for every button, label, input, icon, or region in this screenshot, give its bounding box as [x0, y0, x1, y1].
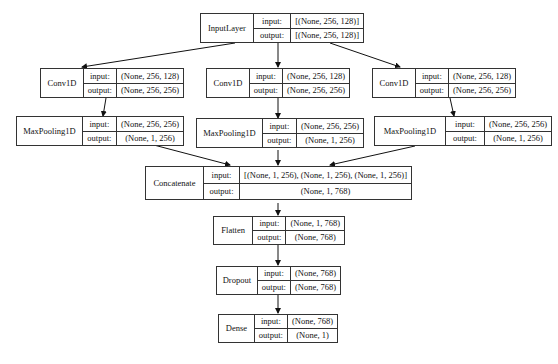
- node-flatten: Flatten input:output: (None, 1, 768)(Non…: [213, 216, 345, 245]
- node-input-layer: InputLayer input:output: [(None, 256, 12…: [200, 13, 364, 43]
- edge-conv3-pool3: [450, 98, 454, 116]
- output-shape: (None, 256, 256): [449, 84, 515, 98]
- output-shape: (None, 768): [291, 281, 340, 294]
- output-shape: (None, 256, 256): [117, 84, 183, 98]
- output-label: output:: [446, 132, 484, 146]
- output-label: output:: [253, 231, 285, 244]
- node-conv1d-2: Conv1D input:output: (None, 256, 128)(No…: [206, 68, 350, 98]
- node-name: MaxPooling1D: [197, 119, 263, 147]
- input-label: input:: [263, 119, 296, 134]
- input-label: input:: [250, 69, 282, 84]
- output-shape: (None, 1): [288, 329, 337, 342]
- node-conv1d-1: Conv1D input:output: (None, 256, 128)(No…: [40, 68, 184, 98]
- node-name: InputLayer: [201, 14, 254, 42]
- node-maxpool-3: MaxPooling1D input:output: (None, 256, 2…: [374, 116, 552, 146]
- edge-input-conv3: [330, 43, 400, 67]
- output-shape: (None, 1, 768): [240, 184, 411, 200]
- input-label: input:: [446, 117, 484, 132]
- input-shape: (None, 256, 128): [449, 69, 515, 84]
- input-label: input:: [83, 117, 116, 132]
- node-name: Concatenate: [146, 167, 204, 199]
- input-label: input:: [204, 167, 239, 184]
- output-label: output:: [255, 329, 287, 342]
- edge-pool3-concat: [330, 146, 415, 165]
- output-label: output:: [84, 84, 116, 98]
- output-label: output:: [83, 132, 116, 146]
- output-label: output:: [254, 29, 290, 43]
- input-shape: [(None, 256, 128)]: [291, 14, 363, 29]
- node-name: MaxPooling1D: [17, 117, 83, 145]
- node-name: Dropout: [217, 267, 258, 294]
- edge-conv1-pool1: [103, 98, 106, 116]
- input-label: input:: [258, 267, 290, 281]
- output-shape: (None, 256, 256): [283, 84, 349, 98]
- output-label: output:: [263, 134, 296, 148]
- input-label: input:: [255, 315, 287, 329]
- input-shape: (None, 256, 128): [283, 69, 349, 84]
- input-shape: (None, 256, 256): [485, 117, 551, 132]
- node-conv1d-3: Conv1D input:output: (None, 256, 128)(No…: [372, 68, 516, 98]
- node-name: Dense: [219, 315, 255, 342]
- input-shape: (None, 256, 128): [117, 69, 183, 84]
- output-label: output:: [204, 184, 239, 200]
- node-name: Conv1D: [207, 69, 250, 97]
- node-maxpool-2: MaxPooling1D input:output: (None, 256, 2…: [196, 118, 364, 148]
- input-shape: (None, 768): [288, 315, 337, 329]
- node-concatenate: Concatenate input:output: [(None, 1, 256…: [145, 166, 412, 200]
- input-label: input:: [253, 217, 285, 231]
- output-shape: (None, 1, 256): [297, 134, 363, 148]
- output-shape: (None, 1, 256): [117, 132, 183, 146]
- input-shape: (None, 256, 256): [297, 119, 363, 134]
- node-dropout: Dropout input:output: (None, 768)(None, …: [216, 266, 341, 295]
- node-name: MaxPooling1D: [375, 117, 446, 145]
- node-name: Conv1D: [41, 69, 84, 97]
- output-shape: (None, 1, 256): [485, 132, 551, 146]
- output-shape: [(None, 256, 128)]: [291, 29, 363, 43]
- node-dense: Dense input:output: (None, 768)(None, 1): [218, 314, 338, 343]
- output-label: output:: [258, 281, 290, 294]
- input-shape: (None, 1, 768): [286, 217, 344, 231]
- output-label: output:: [416, 84, 448, 98]
- node-maxpool-1: MaxPooling1D input:output: (None, 256, 2…: [16, 116, 184, 146]
- edge-input-conv1: [82, 43, 235, 67]
- input-shape: (None, 768): [291, 267, 340, 281]
- input-label: input:: [416, 69, 448, 84]
- input-label: input:: [84, 69, 116, 84]
- input-shape: (None, 256, 256): [117, 117, 183, 132]
- input-label: input:: [254, 14, 290, 29]
- output-label: output:: [250, 84, 282, 98]
- node-name: Conv1D: [373, 69, 416, 97]
- output-shape: (None, 768): [286, 231, 344, 244]
- node-name: Flatten: [214, 217, 253, 244]
- input-shape: [(None, 1, 256), (None, 1, 256), (None, …: [240, 167, 411, 184]
